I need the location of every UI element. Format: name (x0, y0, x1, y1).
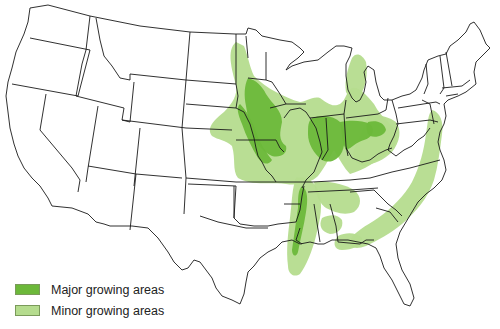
legend-item-major: Major growing areas (15, 282, 164, 297)
major-swatch (15, 284, 40, 295)
legend-label-minor: Minor growing areas (51, 304, 164, 318)
legend-item-minor: Minor growing areas (15, 303, 164, 318)
map-legend: Major growing areas Minor growing areas (15, 282, 164, 324)
minor-swatch (15, 305, 40, 316)
us-map (0, 0, 500, 329)
legend-label-major: Major growing areas (51, 283, 164, 297)
